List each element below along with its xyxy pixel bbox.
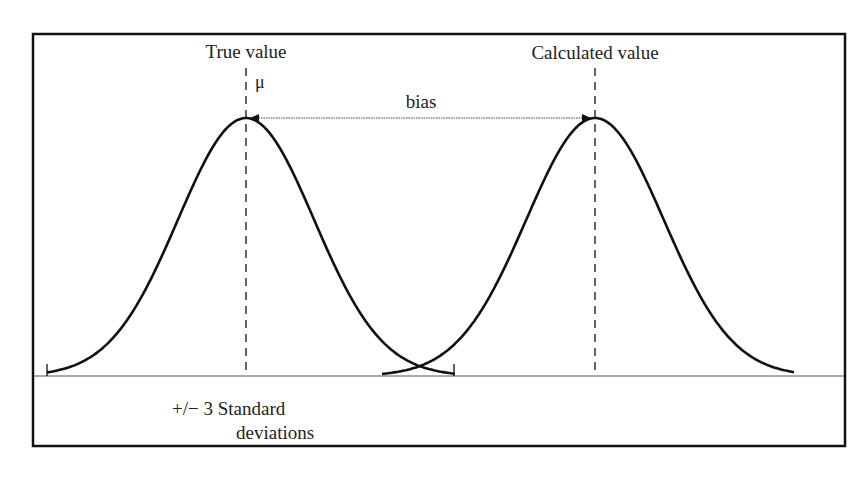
- range-label-line1: +/− 3 Standard: [172, 398, 286, 419]
- calculated-distribution-curve: [382, 118, 794, 374]
- diagram-frame: [33, 34, 845, 446]
- calculated-value-label: Calculated value: [531, 42, 658, 63]
- mu-label: μ: [255, 72, 265, 92]
- true-distribution-curve: [47, 118, 455, 374]
- true-value-label: True value: [205, 41, 286, 62]
- bias-label: bias: [406, 91, 437, 112]
- range-label-line2: deviations: [236, 422, 314, 443]
- bias-diagram: True value Calculated value μ bias +/− 3…: [0, 0, 864, 478]
